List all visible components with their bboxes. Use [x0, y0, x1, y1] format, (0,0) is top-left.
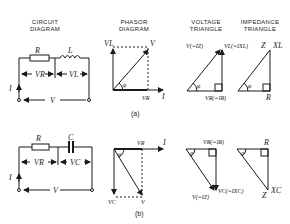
it-label-XC: XC — [270, 186, 282, 195]
vt-angle-phi: φ — [197, 83, 201, 89]
phasor-b — [114, 149, 163, 197]
vt-label-VR-b: VR(=IR) — [203, 139, 224, 146]
phasor-label-I-b: I — [162, 138, 166, 147]
label-V: V — [50, 96, 56, 105]
label-VR: VR — [35, 70, 45, 79]
rc-rl-diagram: R L VR VL I V VL V VR I φ V(=IZ) VL(=IXL… — [0, 0, 290, 224]
phasor-angle-alpha: α — [118, 151, 122, 157]
label-R: R — [34, 46, 40, 55]
capacitor-icon — [69, 141, 73, 153]
label-C: C — [68, 133, 74, 142]
phasor-label-VR-b: VR — [137, 140, 145, 146]
phasor-label-VR: VR — [142, 95, 150, 101]
vt-label-V: V(=IZ) — [186, 43, 203, 50]
it-label-Z: Z — [261, 41, 266, 50]
it-label-XL: XL — [272, 41, 283, 50]
inductor-icon — [60, 56, 80, 59]
circuit-b — [18, 141, 94, 192]
label-L: L — [67, 46, 73, 55]
label-VR-b: VR — [34, 158, 44, 167]
label-R-b: R — [35, 134, 41, 143]
caption-b: (b) — [135, 210, 144, 218]
label-V-b: V — [53, 186, 59, 195]
resistor-icon — [30, 55, 49, 61]
label-I-b: I — [8, 173, 12, 182]
impedance-triangle-a — [238, 50, 270, 91]
it-label-R: R — [265, 93, 271, 102]
label-VL: VL — [69, 70, 79, 79]
it-angle-phi: φ — [248, 83, 252, 89]
phasor-label-VC: VC — [108, 199, 117, 205]
it-label-R-b: R — [263, 138, 269, 147]
phasor-label-VL: VL — [104, 39, 114, 48]
label-I: I — [8, 84, 12, 93]
vt-label-VR: VR(=IR) — [205, 95, 226, 102]
phasor-a — [113, 47, 163, 90]
caption-a: (a) — [131, 110, 140, 118]
phasor-label-V-b: V — [141, 199, 146, 205]
vt-label-VL: VL(=IXL) — [224, 43, 248, 50]
phasor-label-V: V — [150, 39, 156, 48]
resistor-icon — [32, 144, 49, 150]
circuit-a — [18, 55, 91, 102]
phasor-label-I: I — [161, 92, 165, 101]
phasor-angle-phi: φ — [123, 82, 127, 88]
voltage-triangle-a — [187, 50, 222, 91]
vt-label-V-b: V(=IZ) — [192, 194, 209, 201]
label-VC: VC — [70, 158, 81, 167]
vt-label-VC: VC(=IXC) — [218, 188, 243, 195]
it-label-Z-b: Z — [262, 191, 267, 200]
